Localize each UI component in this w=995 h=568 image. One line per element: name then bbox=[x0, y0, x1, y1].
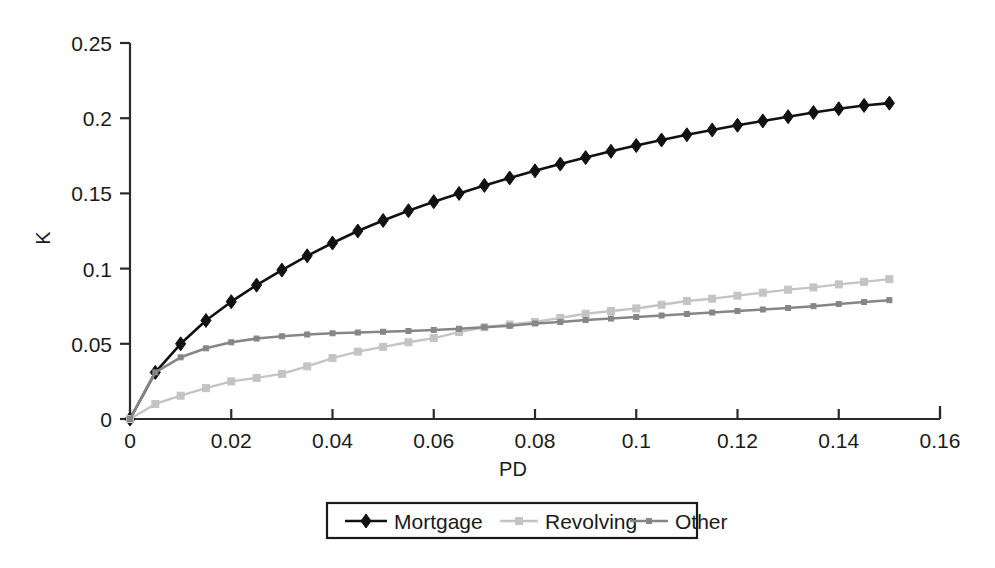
y-tick-label: 0.05 bbox=[71, 333, 112, 356]
data-point-revolving bbox=[709, 295, 716, 302]
y-axis-title: K bbox=[32, 231, 54, 245]
data-point-other bbox=[279, 334, 284, 339]
data-point-other bbox=[457, 326, 462, 331]
data-point-other bbox=[583, 318, 588, 323]
data-point-revolving bbox=[633, 305, 640, 312]
data-point-other bbox=[836, 301, 841, 306]
data-point-other bbox=[811, 304, 816, 309]
data-point-other bbox=[330, 331, 335, 336]
data-point-other bbox=[684, 312, 689, 317]
data-point-revolving bbox=[202, 385, 209, 392]
x-tick-label: 0.02 bbox=[211, 429, 252, 452]
x-tick-label: 0.04 bbox=[312, 429, 353, 452]
data-point-revolving bbox=[607, 308, 614, 315]
data-point-other bbox=[608, 316, 613, 321]
data-point-revolving bbox=[253, 374, 260, 381]
x-tick-label: 0.1 bbox=[622, 429, 651, 452]
data-point-revolving bbox=[734, 292, 741, 299]
legend-label-mortgage: Mortgage bbox=[394, 510, 483, 533]
data-point-revolving bbox=[785, 286, 792, 293]
data-point-other bbox=[203, 346, 208, 351]
data-point-other bbox=[431, 327, 436, 332]
data-point-other bbox=[760, 307, 765, 312]
data-point-other bbox=[634, 315, 639, 320]
y-tick-label: 0.15 bbox=[71, 182, 112, 205]
x-tick-label: 0.14 bbox=[818, 429, 859, 452]
data-point-other bbox=[507, 323, 512, 328]
y-tick-label: 0.2 bbox=[83, 107, 112, 130]
data-point-revolving bbox=[683, 297, 690, 304]
x-tick-label: 0.08 bbox=[515, 429, 556, 452]
data-point-other bbox=[355, 330, 360, 335]
data-point-revolving bbox=[380, 343, 387, 350]
x-tick-label: 0 bbox=[124, 429, 136, 452]
data-point-other bbox=[862, 299, 867, 304]
data-point-other bbox=[178, 355, 183, 360]
y-tick-label: 0.1 bbox=[83, 258, 112, 281]
data-point-other bbox=[659, 313, 664, 318]
data-point-revolving bbox=[582, 310, 589, 317]
data-point-revolving bbox=[759, 289, 766, 296]
chart-container: 00.050.10.150.20.25 00.020.040.060.080.1… bbox=[0, 0, 995, 568]
x-tick-label: 0.16 bbox=[920, 429, 961, 452]
x-tick-label: 0.06 bbox=[413, 429, 454, 452]
data-point-revolving bbox=[329, 355, 336, 362]
data-point-other bbox=[735, 309, 740, 314]
data-point-revolving bbox=[405, 339, 412, 346]
y-tick-label: 0 bbox=[100, 408, 112, 431]
x-tick-label: 0.12 bbox=[717, 429, 758, 452]
data-point-other bbox=[558, 319, 563, 324]
y-tick-label: 0.25 bbox=[71, 32, 112, 55]
data-point-revolving bbox=[152, 400, 159, 407]
data-point-revolving bbox=[304, 363, 311, 370]
data-point-other bbox=[786, 306, 791, 311]
data-point-other bbox=[381, 329, 386, 334]
data-point-other bbox=[128, 417, 133, 422]
data-point-revolving bbox=[354, 348, 361, 355]
data-point-other bbox=[533, 321, 538, 326]
legend-marker-revolving bbox=[516, 518, 523, 525]
legend-label-other: Other bbox=[675, 510, 728, 533]
data-point-other bbox=[482, 325, 487, 330]
data-point-other bbox=[710, 310, 715, 315]
data-point-other bbox=[887, 298, 892, 303]
data-point-other bbox=[406, 329, 411, 334]
data-point-revolving bbox=[658, 301, 665, 308]
data-point-other bbox=[305, 332, 310, 337]
data-point-revolving bbox=[810, 284, 817, 291]
line-chart: 00.050.10.150.20.25 00.020.040.060.080.1… bbox=[0, 0, 995, 568]
data-point-other bbox=[229, 340, 234, 345]
legend-label-revolving: Revolving bbox=[545, 510, 637, 533]
data-point-revolving bbox=[835, 281, 842, 288]
data-point-revolving bbox=[228, 378, 235, 385]
data-point-revolving bbox=[861, 278, 868, 285]
legend-marker-other bbox=[647, 519, 652, 524]
x-axis-title: PD bbox=[499, 458, 527, 480]
data-point-revolving bbox=[886, 276, 893, 283]
data-point-revolving bbox=[278, 370, 285, 377]
data-point-other bbox=[153, 370, 158, 375]
data-point-revolving bbox=[430, 335, 437, 342]
data-point-other bbox=[254, 336, 259, 341]
data-point-revolving bbox=[177, 392, 184, 399]
